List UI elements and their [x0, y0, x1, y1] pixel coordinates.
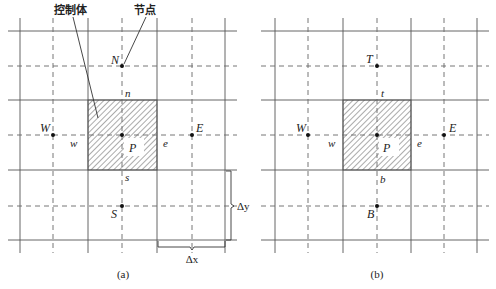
dy-label: Δy — [237, 200, 250, 212]
control-volume-label: 控制体 — [54, 3, 88, 17]
label-face-e: e — [163, 137, 168, 149]
label-S: S — [111, 207, 117, 221]
label-face-n: n — [125, 87, 131, 99]
label-P: P — [128, 141, 137, 155]
node-t-dot — [375, 64, 379, 68]
control-volume-leader — [73, 17, 98, 118]
node-n-dot — [120, 64, 124, 68]
label-P-b: P — [382, 141, 391, 155]
node-w-dot — [51, 133, 55, 137]
panel-b: T W E P B t w e b (b) — [261, 18, 489, 281]
label-face-s: s — [125, 171, 129, 183]
fv-grid-figure: 控制体 节点 N W E P S n w e s Δy Δx (a) — [0, 0, 496, 289]
node-leader — [124, 17, 146, 64]
label-E: E — [195, 121, 204, 135]
label-face-b: b — [380, 173, 386, 185]
label-N: N — [110, 53, 120, 67]
label-face-w: w — [70, 137, 78, 149]
label-W-b: W — [296, 121, 307, 135]
caption-b: (b) — [371, 268, 384, 281]
node-s-dot — [120, 204, 124, 208]
label-B: B — [367, 207, 375, 221]
node-e-dot-b — [442, 133, 446, 137]
label-face-e-b: e — [417, 137, 422, 149]
caption-a: (a) — [117, 268, 130, 281]
node-b-dot — [375, 204, 379, 208]
label-W: W — [40, 121, 51, 135]
panel-a: 控制体 节点 N W E P S n w e s Δy Δx (a) — [8, 3, 250, 281]
dx-brace — [158, 241, 225, 250]
dy-brace — [226, 171, 234, 240]
node-label: 节点 — [134, 3, 156, 17]
label-face-w-b: w — [328, 137, 336, 149]
node-e-dot — [190, 133, 194, 137]
label-E-b: E — [448, 121, 457, 135]
node-p-dot — [120, 133, 124, 137]
label-T: T — [366, 52, 374, 66]
node-w-dot-b — [306, 133, 310, 137]
dx-label: Δx — [186, 253, 199, 265]
node-p-dot-b — [375, 133, 379, 137]
label-face-t: t — [381, 87, 385, 99]
